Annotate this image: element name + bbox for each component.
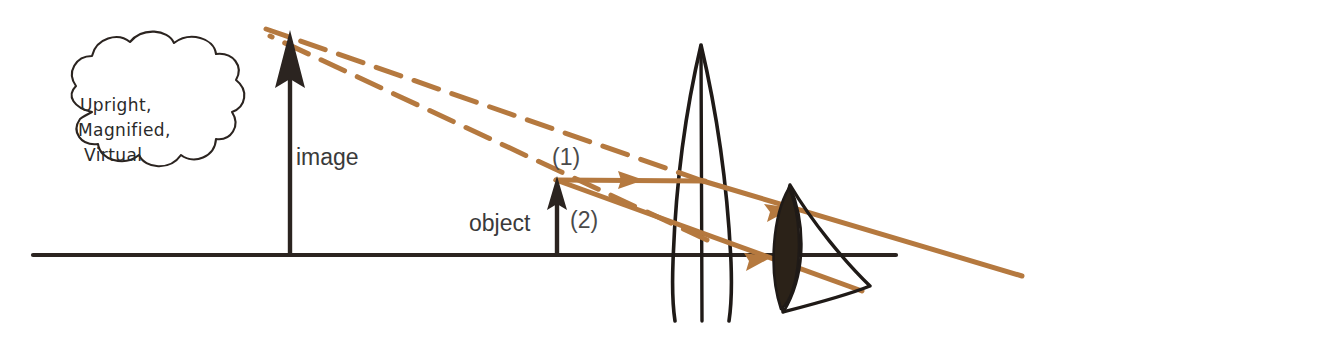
lens-center-line	[701, 46, 702, 321]
image-properties-cloud-text: Upright, Magnified, Virtual	[78, 93, 218, 168]
ray-2-label: (2)	[570, 209, 598, 232]
cloud-line-magnified: Magnified,	[78, 118, 218, 143]
lens-ray-diagram	[0, 0, 1340, 351]
object-label: object	[469, 212, 530, 235]
cloud-line-upright: Upright,	[80, 93, 218, 118]
ray-1-label: (1)	[552, 146, 580, 169]
image-label: image	[296, 146, 359, 169]
ray-2-through-center	[556, 180, 862, 291]
ray-1-incident-arrowhead	[618, 171, 644, 189]
cloud-line-virtual: Virtual	[84, 143, 218, 168]
diagram-canvas: image object (1) (2) Upright, Magnified,…	[0, 0, 1340, 351]
